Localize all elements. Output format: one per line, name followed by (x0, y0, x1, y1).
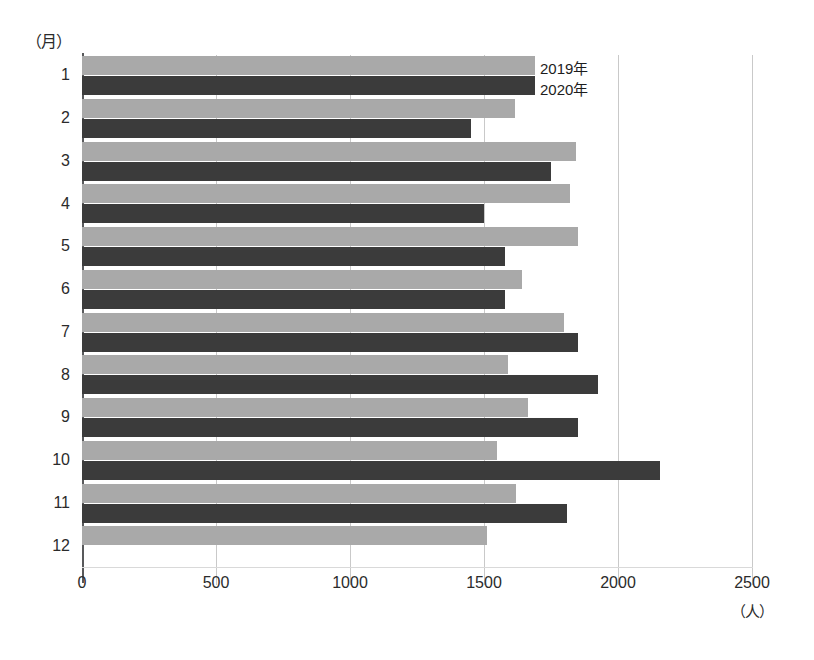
bar-2020年-8 (82, 375, 598, 394)
bar-2019年-11 (82, 484, 516, 503)
bar-group (82, 226, 752, 269)
bar-2020年-5 (82, 247, 505, 266)
bar-group (82, 269, 752, 312)
bar-2019年-10 (82, 441, 497, 460)
y-tick-label-6: 6 (30, 281, 70, 297)
bar-2019年-3 (82, 142, 576, 161)
y-tick-label-1: 1 (30, 67, 70, 83)
x-axis-unit-label: （人） (731, 600, 773, 621)
legend-item-2019: 2019年 (540, 58, 588, 79)
bar-group (82, 483, 752, 526)
legend-item-2020: 2020年 (540, 79, 588, 100)
bar-rows (82, 55, 752, 568)
bar-2019年-8 (82, 355, 508, 374)
bar-2020年-1 (82, 76, 535, 95)
bar-2020年-4 (82, 204, 484, 223)
x-tick-label: 2000 (600, 574, 636, 592)
y-tick-label-4: 4 (30, 196, 70, 212)
y-tick-label-12: 12 (30, 538, 70, 554)
bar-group (82, 98, 752, 141)
bar-2020年-6 (82, 290, 505, 309)
bar-2020年-10 (82, 461, 660, 480)
y-tick-label-8: 8 (30, 367, 70, 383)
bar-2020年-7 (82, 333, 578, 352)
y-tick-label-2: 2 (30, 110, 70, 126)
bar-group (82, 440, 752, 483)
x-tick-label: 0 (78, 574, 87, 592)
bar-group (82, 525, 752, 568)
bar-2020年-9 (82, 418, 578, 437)
y-tick-label-7: 7 (30, 324, 70, 340)
bar-2019年-9 (82, 398, 528, 417)
bar-group (82, 354, 752, 397)
gridline (752, 55, 753, 585)
bar-group (82, 312, 752, 355)
x-tick-label: 2500 (734, 574, 770, 592)
bar-group (82, 141, 752, 184)
bar-2020年-11 (82, 504, 567, 523)
chart-legend: 2019年 2020年 (540, 58, 588, 100)
bar-group (82, 183, 752, 226)
x-tick-label: 1500 (466, 574, 502, 592)
bar-2019年-1 (82, 56, 535, 75)
y-axis-unit-label: （月） (26, 28, 71, 52)
x-axis-line (82, 567, 753, 568)
bar-2019年-6 (82, 270, 522, 289)
y-tick-label-10: 10 (30, 452, 70, 468)
y-tick-label-3: 3 (30, 153, 70, 169)
bar-2020年-3 (82, 162, 551, 181)
bar-2019年-7 (82, 313, 564, 332)
bar-group (82, 55, 752, 98)
bar-2019年-5 (82, 227, 578, 246)
x-tick-label: 500 (203, 574, 230, 592)
bar-2019年-12 (82, 526, 487, 545)
chart-canvas: （月） 123456789101112 05001000150020002500… (0, 0, 814, 660)
bar-2019年-2 (82, 99, 515, 118)
y-tick-label-5: 5 (30, 238, 70, 254)
x-tick-label: 1000 (332, 574, 368, 592)
y-tick-label-11: 11 (30, 495, 70, 511)
bar-group (82, 397, 752, 440)
y-axis-tick-labels: 123456789101112 (0, 55, 70, 568)
bar-2019年-4 (82, 184, 570, 203)
bar-2020年-2 (82, 119, 471, 138)
y-tick-label-9: 9 (30, 409, 70, 425)
